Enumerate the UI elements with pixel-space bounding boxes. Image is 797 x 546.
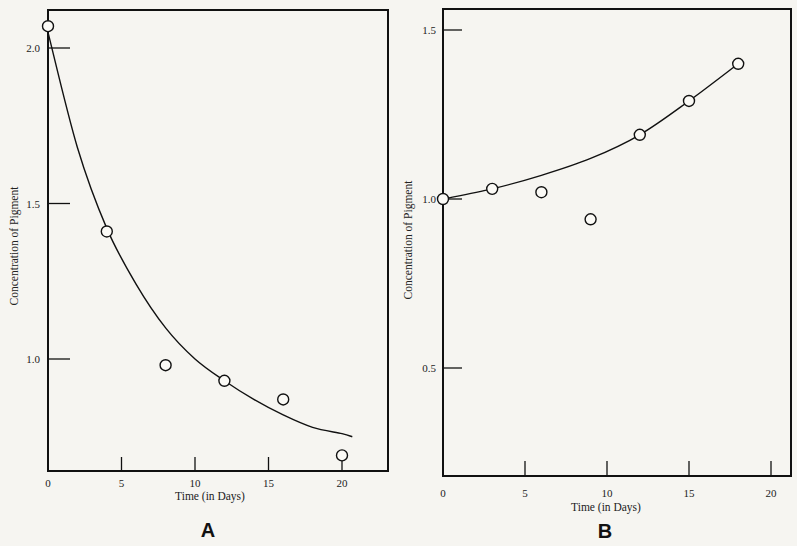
y-tick-label: 1.5 <box>422 24 436 36</box>
chart-panel-b: 0.51.01.5 05101520 Time (in Days) Concen… <box>402 9 791 542</box>
chart-panel-a: 1.01.52.0 05101520 Time (in Days) Concen… <box>8 10 388 541</box>
data-point <box>536 187 547 198</box>
x-axis-title-a: Time (in Days) <box>175 490 245 503</box>
x-tick-label: 0 <box>440 487 446 499</box>
figure: 1.01.52.0 05101520 Time (in Days) Concen… <box>0 0 797 546</box>
panel-label-b: B <box>598 520 612 542</box>
data-point <box>160 360 171 371</box>
panel-label-a: A <box>201 519 215 541</box>
y-tick-label: 1.5 <box>26 198 40 210</box>
x-tick-label: 5 <box>119 477 125 489</box>
data-point <box>219 375 230 386</box>
data-point <box>634 129 645 140</box>
x-ticks-a: 05101520 <box>45 457 348 489</box>
data-point <box>438 194 449 205</box>
plot-frame-a <box>48 10 388 471</box>
fit-curve-b <box>443 64 738 199</box>
x-ticks-b: 05101520 <box>440 461 777 499</box>
y-axis-title-b: Concentration of Pigment <box>402 180 415 300</box>
data-point <box>337 450 348 461</box>
data-point <box>487 183 498 194</box>
x-tick-label: 20 <box>766 487 778 499</box>
y-tick-label: 1.0 <box>26 353 40 365</box>
x-tick-label: 0 <box>45 477 51 489</box>
y-tick-label: 2.0 <box>26 42 40 54</box>
x-axis-title-b: Time (in Days) <box>571 501 641 514</box>
x-tick-label: 15 <box>263 477 275 489</box>
data-point <box>43 21 54 32</box>
data-point <box>733 58 744 69</box>
y-tick-label: 0.5 <box>422 362 436 374</box>
data-point <box>585 214 596 225</box>
data-point <box>278 394 289 405</box>
x-tick-label: 15 <box>684 487 696 499</box>
data-point <box>101 226 112 237</box>
x-tick-label: 10 <box>190 477 202 489</box>
plot-frame-b <box>443 9 791 476</box>
data-points-a <box>43 21 348 461</box>
y-axis-title-a: Concentration of Pigment <box>8 186 21 306</box>
x-tick-label: 5 <box>522 487 528 499</box>
x-tick-label: 10 <box>602 487 614 499</box>
x-tick-label: 20 <box>337 477 349 489</box>
fit-curve-a <box>48 32 352 436</box>
data-point <box>684 95 695 106</box>
y-tick-label: 1.0 <box>422 193 436 205</box>
data-points-b <box>438 58 744 224</box>
